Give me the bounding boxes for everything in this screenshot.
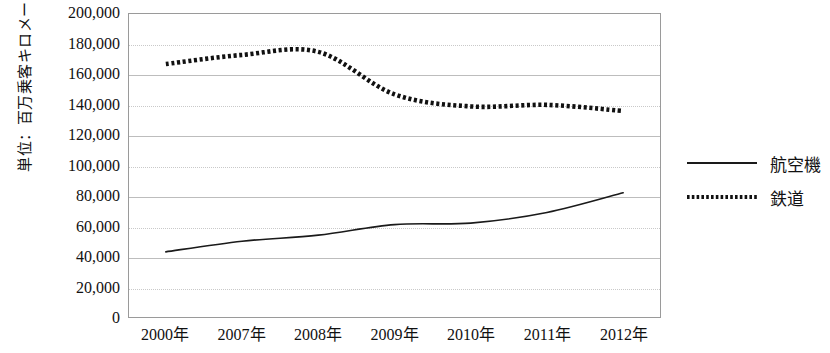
plot-area bbox=[128, 13, 661, 318]
solid-line-key-icon bbox=[686, 156, 758, 170]
y-axis-tick-label: 100,000 bbox=[68, 158, 120, 174]
legend-item-railway: 鉄道 bbox=[686, 180, 826, 214]
y-axis-tick-label: 120,000 bbox=[68, 127, 120, 143]
y-axis-tick-label: 60,000 bbox=[76, 219, 120, 235]
y-axis-tick-label: 0 bbox=[112, 310, 120, 326]
y-axis-tick-label: 80,000 bbox=[76, 188, 120, 204]
legend-label-aircraft: 航空機 bbox=[770, 151, 821, 176]
x-axis-tick-labels: 2000年2007年2008年2009年2010年2011年2012年 bbox=[128, 322, 661, 352]
x-axis-tick-label: 2009年 bbox=[371, 322, 419, 348]
legend-label-railway: 鉄道 bbox=[770, 185, 804, 210]
y-axis-tick-labels: 200,000180,000160,000140,000120,000100,0… bbox=[28, 0, 120, 353]
plot-inner bbox=[129, 14, 660, 317]
y-axis-tick-label: 200,000 bbox=[68, 5, 120, 21]
line-chart: 単位：百万乗客キロメートル 200,000180,000160,000140,0… bbox=[0, 0, 830, 353]
y-axis-tick-label: 160,000 bbox=[68, 66, 120, 82]
x-axis-tick-label: 2010年 bbox=[447, 322, 495, 348]
x-axis-tick-label: 2000年 bbox=[141, 322, 189, 348]
y-axis-tick-label: 20,000 bbox=[76, 280, 120, 296]
x-axis-tick-label: 2012年 bbox=[600, 322, 648, 348]
y-axis-tick-label: 140,000 bbox=[68, 97, 120, 113]
series-line-railway bbox=[166, 49, 623, 111]
chart-legend: 航空機 鉄道 bbox=[686, 146, 826, 214]
y-axis-tick-label: 40,000 bbox=[76, 249, 120, 265]
series-line-aircraft bbox=[166, 193, 623, 252]
series-layer bbox=[129, 14, 660, 317]
x-axis-tick-label: 2011年 bbox=[524, 322, 571, 348]
x-axis-tick-label: 2007年 bbox=[218, 322, 266, 348]
y-axis-tick-label: 180,000 bbox=[68, 36, 120, 52]
x-axis-tick-label: 2008年 bbox=[294, 322, 342, 348]
legend-item-aircraft: 航空機 bbox=[686, 146, 826, 180]
dotted-line-key-icon bbox=[686, 190, 758, 204]
